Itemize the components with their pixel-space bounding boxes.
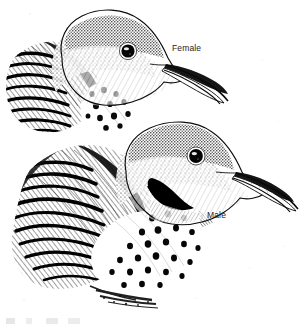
male-eye-catchlight xyxy=(192,152,197,155)
female-eye xyxy=(119,42,136,59)
label-male: Male xyxy=(207,210,226,220)
male-eye xyxy=(187,147,205,165)
illustration-plate: Female Male xyxy=(0,0,301,326)
caption-stub-artifact xyxy=(6,318,116,324)
label-female: Female xyxy=(172,43,201,53)
female-eye-catchlight xyxy=(124,47,129,50)
flicker-illustration-svg xyxy=(0,0,301,326)
